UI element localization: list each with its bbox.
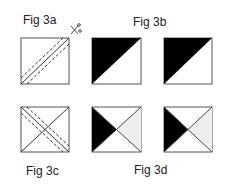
fig-3b-square-2: [164, 38, 212, 84]
fig-3d-square-2: [164, 107, 212, 152]
fig-3a-square: [21, 38, 69, 84]
fig-3c-square: [21, 107, 69, 152]
fig-3b-square-1: [92, 38, 141, 84]
quilt-diagram: [0, 0, 226, 188]
fig-3d-square-1: [92, 107, 141, 152]
scissors-icon: [71, 24, 81, 34]
